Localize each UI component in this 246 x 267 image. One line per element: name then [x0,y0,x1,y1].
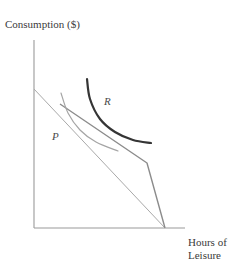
budget-lines-group [34,89,165,228]
x-axis-label: Hours ofLeisure [188,236,227,262]
curve-label-r: R [104,96,111,107]
curve-label-p: P [52,131,59,142]
indifference-curve-plot [0,0,246,267]
indifference-curve-r [87,79,151,143]
y-axis-label: Consumption ($) [5,18,80,31]
kinked-budget-line [60,104,165,228]
x-axis-label-line2: Leisure [188,249,221,261]
original-budget-line [34,89,165,228]
x-axis-label-line1: Hours of [188,236,227,248]
indifference-curves-group [61,79,151,151]
figure-canvas: Consumption ($) Hours ofLeisure P R [0,0,246,267]
